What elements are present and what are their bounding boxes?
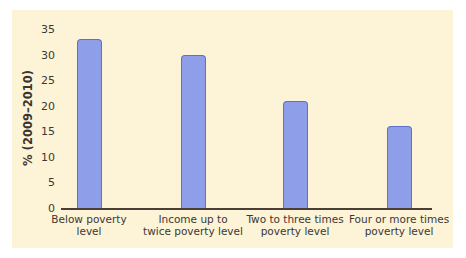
y-axis-label: % (2009–2010) <box>21 70 35 166</box>
y-tick-label: 5 <box>35 176 55 189</box>
y-tick-label: 35 <box>35 23 55 36</box>
y-tick-label: 10 <box>35 150 55 163</box>
x-axis-line <box>61 208 432 210</box>
x-tick-label-line: Four or more times <box>334 213 464 225</box>
bar <box>181 55 206 208</box>
y-tick-label: 25 <box>35 74 55 87</box>
bar <box>283 101 308 208</box>
x-tick-label: Four or more timespoverty level <box>334 213 464 237</box>
bar <box>77 39 102 208</box>
y-tick-label: 15 <box>35 125 55 138</box>
y-tick-label: 20 <box>35 99 55 112</box>
y-tick-label: 30 <box>35 48 55 61</box>
x-tick-label-line: poverty level <box>334 225 464 237</box>
bar <box>387 126 412 208</box>
